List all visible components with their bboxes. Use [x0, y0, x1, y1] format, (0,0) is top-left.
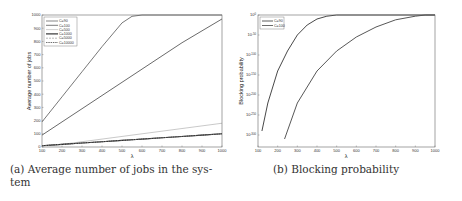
- chart-a-ylabel: Average number of jobs: [26, 52, 32, 111]
- caption-b: (b) Blocking probability: [273, 163, 399, 176]
- x-tick-label: 600: [353, 148, 360, 153]
- y-tick-label: 1000: [32, 12, 42, 17]
- chart-b-svg: 100200300400500600700800900100010010-501…: [231, 0, 462, 160]
- chart-b-legend: C=90C=100: [260, 17, 285, 29]
- y-tick-label: 10-250: [246, 112, 256, 118]
- x-tick-label: 1000: [431, 148, 441, 153]
- y-tick-label: 400: [34, 92, 41, 97]
- x-tick-label: 900: [199, 148, 206, 153]
- x-tick-label: 800: [392, 148, 399, 153]
- chart-b-ylabel: Blocking probability: [238, 57, 244, 105]
- chart-a-legend: C=90C=100C=500C=1000C=5000C=10000: [44, 17, 77, 46]
- x-tick-label: 300: [79, 148, 86, 153]
- caption-a-line1: (a) Average number of jobs in the sys-: [10, 163, 230, 176]
- chart-b-plot-area: [262, 15, 435, 139]
- caption-a: (a) Average number of jobs in the sys- t…: [10, 163, 230, 189]
- y-tick-label: 200: [34, 118, 41, 123]
- y-tick-label: 900: [34, 26, 41, 31]
- chart-a-svg: 1002003004005006007008009001000010020030…: [0, 0, 231, 160]
- x-tick-label: 600: [139, 148, 146, 153]
- series-line: [262, 15, 435, 131]
- x-tick-label: 200: [274, 148, 281, 153]
- x-tick-label: 900: [412, 148, 419, 153]
- caption-a-line2: tem: [10, 176, 230, 189]
- x-tick-label: 200: [59, 148, 66, 153]
- chart-b-axes-box: [258, 15, 435, 147]
- y-tick-label: 600: [34, 65, 41, 70]
- chart-a-xlabel: λ: [131, 153, 134, 159]
- y-tick-label: 10-50: [248, 32, 257, 38]
- legend-label: C=100: [274, 24, 285, 28]
- chart-panel-b: 100200300400500600700800900100010010-501…: [231, 0, 462, 160]
- y-tick-label: 100: [34, 131, 41, 136]
- x-tick-label: 100: [255, 148, 262, 153]
- y-tick-label: 700: [34, 52, 41, 57]
- legend-label: C=10000: [59, 41, 74, 45]
- x-tick-label: 300: [294, 148, 301, 153]
- chart-b-xlabel: λ: [345, 153, 348, 159]
- series-line: [42, 123, 222, 145]
- x-tick-label: 1000: [218, 148, 228, 153]
- y-tick-label: 800: [34, 39, 41, 44]
- x-tick-label: 400: [99, 148, 106, 153]
- y-tick-label: 500: [34, 78, 41, 83]
- x-tick-label: 800: [179, 148, 186, 153]
- y-tick-label: 10-100: [246, 52, 256, 58]
- y-tick-label: 10-200: [246, 92, 256, 98]
- legend-label: C=90: [274, 19, 283, 23]
- x-tick-label: 700: [159, 148, 166, 153]
- y-tick-label: 10-300: [246, 132, 256, 138]
- series-line: [285, 15, 435, 139]
- chart-b-ticks: 100200300400500600700800900100010010-501…: [246, 12, 440, 153]
- y-tick-label: 100: [250, 12, 256, 18]
- y-tick-label: 10-150: [246, 72, 256, 78]
- x-tick-label: 400: [314, 148, 321, 153]
- chart-panel-a: 1002003004005006007008009001000010020030…: [0, 0, 231, 160]
- x-tick-label: 500: [119, 148, 126, 153]
- y-tick-label: 300: [34, 105, 41, 110]
- x-tick-label: 700: [373, 148, 380, 153]
- x-tick-label: 500: [333, 148, 340, 153]
